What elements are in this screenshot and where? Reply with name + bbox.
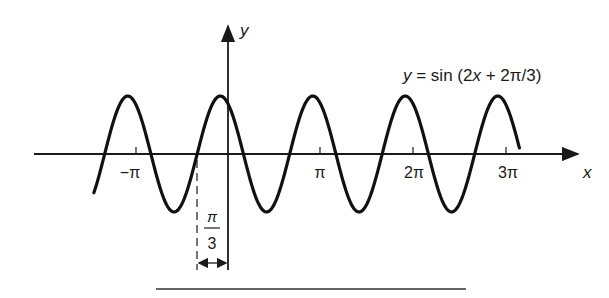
tick-label-neg-pi: −π xyxy=(120,164,140,181)
tick-label-2pi: 2π xyxy=(404,164,424,181)
equation-label: y = sin (2x + 2π/3) xyxy=(402,66,541,85)
tick-label-pi: π xyxy=(314,164,325,181)
shift-denominator: 3 xyxy=(208,235,217,252)
sine-plot: π 3 −π π 2π 3π x y y = sin (2x + 2π/3) xyxy=(0,0,609,298)
x-ticks xyxy=(136,147,506,154)
shift-numerator: π xyxy=(207,208,218,225)
tick-label-3pi: 3π xyxy=(498,164,518,181)
x-axis-label: x xyxy=(582,163,592,182)
y-axis-label: y xyxy=(239,21,250,40)
